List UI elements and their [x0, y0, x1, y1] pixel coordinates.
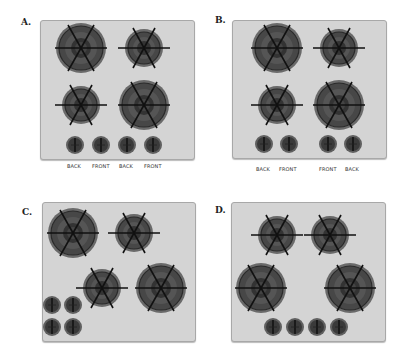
knob-4	[64, 318, 82, 336]
burner-back-right	[313, 28, 365, 68]
knob-3	[308, 318, 326, 336]
knob-label-a-4: FRONT	[144, 163, 162, 169]
burner-back-right	[108, 213, 160, 253]
burner-front-left	[76, 268, 128, 308]
knob-label-a-1: BACK	[67, 163, 81, 169]
burner-front-right	[324, 263, 376, 313]
knob-4	[344, 135, 362, 153]
knob-3	[43, 318, 61, 336]
knob-1	[43, 296, 61, 314]
knob-2	[64, 296, 82, 314]
knob-1	[264, 318, 282, 336]
knob-2	[92, 136, 110, 154]
option-a-cooktop[interactable]	[40, 20, 195, 160]
burner-front-left	[235, 263, 287, 313]
knob-2	[286, 318, 304, 336]
burner-back-left	[55, 23, 107, 73]
burner-back-left	[251, 215, 303, 255]
knob-label-b-4: BACK	[345, 166, 359, 172]
knob-label-b-3: FRONT	[319, 166, 337, 172]
knob-label-b-2: FRONT	[279, 166, 297, 172]
knob-4	[144, 136, 162, 154]
option-a-label: A.	[21, 17, 31, 27]
option-c-label: C.	[22, 207, 32, 217]
burner-back-right	[118, 28, 170, 68]
knob-label-a-2: FRONT	[92, 163, 110, 169]
knob-2	[280, 135, 298, 153]
knob-3	[319, 135, 337, 153]
option-c-cooktop[interactable]	[42, 202, 196, 342]
option-d-label: D.	[215, 205, 226, 215]
knob-label-b-1: BACK	[256, 166, 270, 172]
burner-front-left	[251, 85, 303, 125]
burner-front-right	[135, 263, 187, 313]
option-b-label: B.	[215, 15, 226, 25]
knob-3	[118, 136, 136, 154]
burner-back-left	[251, 23, 303, 73]
burner-back-right	[304, 215, 356, 255]
option-b-cooktop[interactable]	[232, 20, 387, 159]
knob-1	[66, 136, 84, 154]
burner-front-left	[55, 85, 107, 125]
knob-label-a-3: BACK	[119, 163, 133, 169]
knob-1	[255, 135, 273, 153]
knob-4	[330, 318, 348, 336]
burner-back-left	[47, 208, 99, 258]
burner-front-right	[118, 80, 170, 130]
option-d-cooktop[interactable]	[231, 202, 386, 342]
burner-front-right	[313, 80, 365, 130]
